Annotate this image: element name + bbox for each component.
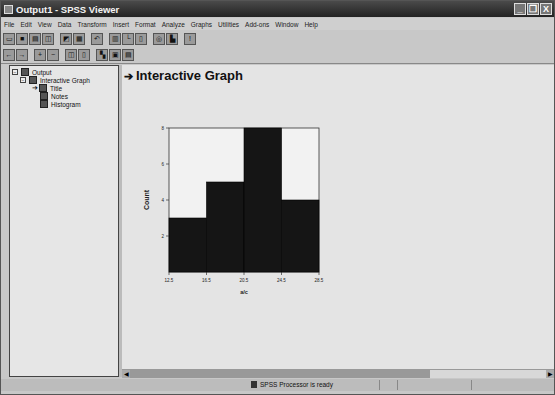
processor-icon (251, 381, 257, 388)
y-tick-label: 6 (161, 162, 164, 167)
help-icon[interactable]: ! (184, 33, 196, 45)
status-bar: SPSS Processor is ready (1, 379, 554, 391)
scroll-right-icon[interactable]: ▶ (546, 370, 554, 378)
menu-addons[interactable]: Add-ons (245, 21, 269, 28)
goto-case-icon[interactable]: └ (122, 33, 134, 45)
menu-view[interactable]: View (38, 21, 52, 28)
promote-icon[interactable]: ← (3, 49, 15, 61)
book-icon (21, 68, 29, 76)
insert-results-icon[interactable]: ◎ (153, 33, 165, 45)
menu-bar: File Edit View Data Transform Insert For… (1, 18, 554, 30)
notes-icon (40, 92, 48, 100)
histogram-bar[interactable] (169, 218, 207, 272)
collapse-toggle[interactable]: − (20, 77, 26, 83)
tree-item-histogram[interactable]: Histogram (40, 100, 81, 108)
insert-heading-icon[interactable]: ▚ (96, 49, 108, 61)
x-tick-label: 16.5 (202, 278, 211, 283)
menu-analyze[interactable]: Analyze (162, 21, 185, 28)
outline-pane: − Output − Interactive Graph ➔ Title Not… (9, 65, 119, 377)
x-tick-label: 12.5 (165, 278, 174, 283)
x-tick-label: 20.5 (240, 278, 249, 283)
collapse-icon[interactable]: − (47, 49, 59, 61)
open-icon[interactable]: ▭ (3, 33, 15, 45)
menu-help[interactable]: Help (304, 21, 317, 28)
spss-viewer-window: Output1 - SPSS Viewer _ ❐ X File Edit Vi… (0, 0, 555, 395)
goto-data-icon[interactable]: ▥ (109, 33, 121, 45)
insert-text-icon[interactable]: ▤ (122, 49, 134, 61)
window-title: Output1 - SPSS Viewer (16, 4, 119, 15)
menu-transform[interactable]: Transform (77, 21, 106, 28)
title-icon (39, 84, 47, 92)
tree-item-interactive-graph[interactable]: − Interactive Graph (20, 76, 90, 84)
menu-graphs[interactable]: Graphs (191, 21, 212, 28)
x-tick-label: 28.5 (315, 278, 324, 283)
demote-icon[interactable]: → (16, 49, 28, 61)
export-icon[interactable]: ◩ (60, 33, 72, 45)
y-axis-label: Count (143, 189, 150, 210)
menu-data[interactable]: Data (58, 21, 72, 28)
restore-button[interactable]: ❐ (527, 3, 539, 15)
y-tick-label: 2 (161, 234, 164, 239)
x-tick-label: 24.5 (277, 278, 286, 283)
app-icon (4, 5, 13, 14)
insert-title-icon[interactable]: ▣ (109, 49, 121, 61)
recall-dialog-icon[interactable]: ▦ (73, 33, 85, 45)
content-pane: ➔Interactive Graph 246812.516.520.524.52… (122, 65, 554, 369)
tree-item-notes[interactable]: Notes (40, 92, 68, 100)
y-tick-label: 4 (161, 198, 164, 203)
histogram-bar[interactable] (244, 128, 282, 272)
book-icon (29, 76, 37, 84)
menu-file[interactable]: File (4, 21, 14, 28)
print-preview-icon[interactable]: ◫ (42, 33, 54, 45)
horizontal-scrollbar[interactable]: ◀ ▶ (122, 369, 554, 378)
current-item-arrow-icon: ➔ (32, 84, 38, 92)
status-cell (397, 380, 398, 390)
toolbar-divider (1, 63, 554, 64)
scroll-left-icon[interactable]: ◀ (122, 370, 130, 378)
menu-insert[interactable]: Insert (113, 21, 129, 28)
designate-window-icon[interactable]: ▙ (166, 33, 178, 45)
minimize-button[interactable]: _ (514, 3, 526, 15)
outline-toolbar: ← → + − ◫ ▯ ▚ ▣ ▤ (3, 47, 134, 62)
status-cell (471, 380, 472, 390)
title-bar: Output1 - SPSS Viewer _ ❐ X (1, 1, 554, 17)
standard-toolbar: ▭ ■ ▤ ◫ ◩ ▦ ↶ ▥ └ ▯ ◎ ▙ ! (3, 31, 196, 46)
status-cell (379, 380, 380, 390)
variables-icon[interactable]: ▯ (135, 33, 147, 45)
scroll-thumb[interactable] (130, 370, 430, 378)
undo-icon[interactable]: ↶ (91, 33, 103, 45)
menu-utilities[interactable]: Utilities (218, 21, 239, 28)
expand-icon[interactable]: + (34, 49, 46, 61)
histogram-icon (40, 100, 48, 108)
histogram-bar[interactable] (282, 200, 320, 272)
menu-format[interactable]: Format (135, 21, 156, 28)
hide-icon[interactable]: ▯ (78, 49, 90, 61)
tree-item-output[interactable]: − Output (12, 68, 52, 76)
tree-item-title[interactable]: ➔ Title (32, 84, 62, 92)
close-button[interactable]: X (540, 3, 552, 15)
save-icon[interactable]: ■ (16, 33, 28, 45)
status-message: SPSS Processor is ready (260, 381, 333, 388)
print-icon[interactable]: ▤ (29, 33, 41, 45)
show-icon[interactable]: ◫ (65, 49, 77, 61)
menu-window[interactable]: Window (275, 21, 298, 28)
y-tick-label: 8 (161, 126, 164, 131)
histogram-chart[interactable]: 246812.516.520.524.528.5a/cCount (122, 65, 554, 369)
histogram-bar[interactable] (207, 182, 245, 272)
menu-edit[interactable]: Edit (20, 21, 31, 28)
x-axis-label: a/c (240, 289, 248, 295)
collapse-toggle[interactable]: − (12, 69, 18, 75)
